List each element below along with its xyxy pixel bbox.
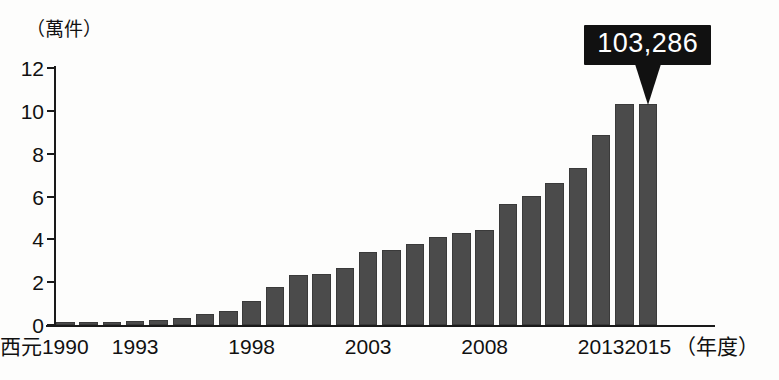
bar [522, 196, 541, 325]
x-axis-tick-label: 2013 [578, 336, 625, 357]
bar [569, 168, 588, 325]
x-axis-tick-label: 2008 [461, 336, 508, 357]
bar [475, 230, 494, 325]
x-axis-tick-label: 1993 [112, 336, 159, 357]
bars-container [56, 68, 676, 325]
bar [149, 320, 168, 325]
bar [359, 252, 378, 325]
x-axis-tick-label: 1990 [42, 336, 89, 357]
bar [289, 275, 308, 325]
y-axis-tick [47, 110, 55, 112]
value-callout-label: 103,286 [597, 29, 698, 59]
y-axis-tick [47, 196, 55, 198]
y-axis-tick-label: 8 [4, 143, 44, 164]
bar [545, 183, 564, 325]
bar [242, 301, 261, 325]
bar [639, 104, 658, 325]
y-axis-tick [47, 238, 55, 240]
value-callout-box: 103,286 [584, 25, 711, 65]
y-axis-tick [47, 153, 55, 155]
bar [79, 322, 98, 326]
x-axis-tick-label: 1998 [228, 336, 275, 357]
bar [499, 204, 518, 325]
y-axis-tick [47, 281, 55, 283]
y-axis-tick-label: 10 [4, 100, 44, 121]
value-callout-pointer [635, 64, 661, 105]
bar [452, 233, 471, 325]
x-axis-tick-label: 2003 [345, 336, 392, 357]
y-axis-tick-label: 6 [4, 186, 44, 207]
bar [103, 322, 122, 326]
bar [173, 318, 192, 325]
bar [615, 104, 634, 325]
x-axis-prefix-label: 西元 [0, 336, 42, 357]
x-axis-unit-label: （年度） [675, 336, 759, 357]
bar [429, 237, 448, 325]
bar [592, 135, 611, 325]
y-axis-unit-label: （萬件） [26, 14, 102, 41]
bar [312, 274, 331, 325]
bar [219, 311, 238, 325]
bar [126, 321, 145, 325]
bar [406, 244, 425, 325]
y-axis-tick [47, 67, 55, 69]
bar [56, 322, 75, 326]
y-axis-tick-label: 12 [4, 58, 44, 79]
x-axis-line [46, 325, 715, 327]
bar [196, 314, 215, 325]
y-axis-tick-label: 2 [4, 272, 44, 293]
bar-chart-figure: （萬件） 024681012 西元 1990199319982003200820… [0, 0, 779, 380]
x-axis-tick-label: 2015 [624, 336, 671, 357]
bar [266, 287, 285, 325]
bar [336, 268, 355, 325]
y-axis-tick [47, 324, 55, 326]
y-axis-tick-label: 0 [4, 315, 44, 336]
y-axis-tick-label: 4 [4, 229, 44, 250]
bar [382, 250, 401, 325]
